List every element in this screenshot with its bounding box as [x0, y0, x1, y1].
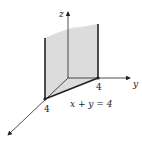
- diagram-canvas: z y 4 4 x + y = 4: [0, 0, 142, 141]
- y-axis-label: y: [132, 79, 139, 89]
- y-intercept-label: 4: [96, 82, 102, 92]
- x-axis: [8, 78, 68, 135]
- y-intercept-point: [96, 76, 99, 79]
- x-intercept-label: 4: [44, 104, 50, 114]
- x-intercept-point: [43, 97, 46, 100]
- z-axis-label: z: [58, 9, 64, 19]
- plane-equation: x + y = 4: [70, 99, 113, 109]
